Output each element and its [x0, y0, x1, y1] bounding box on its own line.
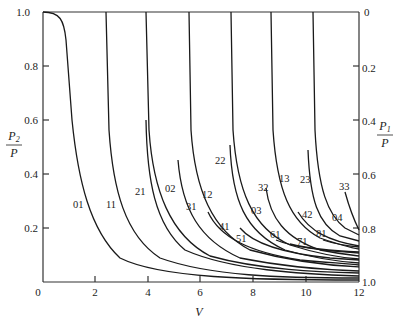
y-right-tick-label: 0.2	[362, 62, 376, 74]
y-left-tick-label: 0.6	[24, 114, 38, 126]
curve-label: 42	[302, 209, 313, 220]
x-tick-label: 0	[35, 286, 41, 298]
curve-01	[43, 12, 359, 280]
svg-text:P1: P1	[378, 119, 390, 134]
curve-label: 02	[165, 183, 176, 194]
curve-label: 32	[258, 182, 269, 193]
x-tick-label: 2	[92, 286, 98, 298]
y-right-tick-label: 0	[364, 6, 370, 18]
y-left-tick-label: 0.4	[24, 168, 38, 180]
curve-label: 01	[73, 199, 84, 210]
y-left-tick-label: 0.2	[24, 222, 38, 234]
y-right-tick-label: 0.4	[362, 115, 376, 127]
curve-label: 12	[202, 189, 213, 200]
curve-labels: 01 11 21 02 31 12 22 41 03 51 32 13 61 7…	[73, 155, 350, 247]
y-right-tick-label: 0.6	[362, 169, 376, 181]
curve-label: 23	[300, 174, 311, 185]
x-tick-label: 6	[197, 286, 203, 298]
curve-label: 03	[251, 205, 262, 216]
x-tick-label: 4	[145, 286, 151, 298]
curve-label: 21	[135, 186, 146, 197]
curves	[43, 12, 359, 280]
chart-canvas: 0 2 4 6 8 10 12 V 1.0 0.8 0.6 0.4 0.2 P2…	[0, 0, 398, 318]
curve-label: 22	[215, 155, 226, 166]
curve-label: 41	[219, 221, 230, 232]
y-ticks-left: 1.0 0.8 0.6 0.4 0.2	[16, 6, 49, 234]
x-tick-label: 8	[250, 286, 256, 298]
x-tick-label: 10	[301, 286, 313, 298]
curve-label: 51	[236, 233, 247, 244]
y-left-axis-title: P2 P	[6, 129, 22, 160]
curve-label: 13	[279, 173, 290, 184]
y-left-tick-label: 1.0	[16, 6, 30, 18]
curve-label: 11	[106, 199, 116, 210]
curve-81	[323, 240, 359, 247]
curve-label: 81	[316, 228, 327, 239]
svg-text:P2: P2	[7, 129, 19, 144]
y-right-tick-label: 0.8	[362, 223, 376, 235]
curve-label: 71	[297, 236, 308, 247]
x-axis-title: V	[195, 305, 204, 318]
svg-text:P: P	[9, 146, 18, 160]
curve-label: 61	[270, 229, 281, 240]
curve-label: 33	[339, 181, 350, 192]
curve-02	[146, 12, 359, 273]
curve-label: 31	[186, 201, 197, 212]
y-right-tick-label: 1.0	[362, 276, 376, 288]
svg-text:P: P	[380, 136, 389, 150]
y-left-tick-label: 0.8	[24, 60, 38, 72]
curve-label: 04	[332, 212, 343, 223]
curve-33	[345, 192, 359, 230]
curve-21	[146, 120, 359, 276]
plot-frame	[43, 12, 359, 282]
curve-04	[313, 12, 359, 235]
y-right-axis-title: P1 P	[377, 119, 393, 150]
